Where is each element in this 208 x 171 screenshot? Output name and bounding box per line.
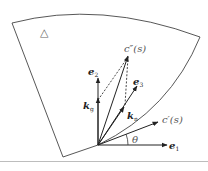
theta-arc [126,134,128,145]
c-prime-label: c′(s) [162,115,183,125]
bottom-divider [0,161,208,162]
e1-label: e1 [169,141,179,154]
kn-label: kn [127,111,138,124]
theta-label: θ [132,135,138,145]
e2-label: e2 [88,67,98,80]
e3-label: e3 [133,77,143,90]
region-marker-triangle: △ [40,28,48,38]
kg-label: kg [83,101,94,114]
kn-arrow [98,107,124,145]
c-double-prime-arrow [98,56,128,145]
dashed-line-kg-to-cpp [98,57,128,100]
c-double-prime-label: c″(s) [124,44,146,54]
